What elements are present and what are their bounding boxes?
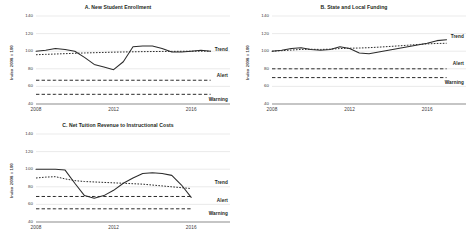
x-axis-tick-label: 2008: [267, 107, 278, 113]
y-axis-tick-label: 140: [25, 14, 33, 18]
chart-panel-a: A. New Student Enrollment 40608010012014…: [0, 4, 236, 120]
x-axis-tick-label: 2012: [108, 225, 119, 231]
y-axis-tick-label: 80: [28, 185, 33, 189]
y-axis-tick-label: 80: [28, 67, 33, 71]
panel-b-title: B. State and Local Funding: [236, 4, 472, 11]
series-annotation-trend: Trend: [215, 180, 228, 185]
series-line-trend: [36, 51, 211, 55]
series-annotation-alert: Alert: [217, 73, 228, 78]
y-axis-tick-label: 120: [261, 32, 269, 36]
y-axis-tick-label: 80: [264, 67, 269, 71]
x-axis-tick-label: 2016: [186, 107, 197, 113]
chart-panel-b: B. State and Local Funding 4060801001201…: [236, 4, 472, 120]
series-annotation-trend: Trend: [451, 34, 464, 39]
y-axis-tick-label: 60: [28, 202, 33, 206]
x-axis-tick-label: 2012: [108, 107, 119, 113]
x-axis-tick-label: 2016: [422, 107, 433, 113]
panel-b-plot-area: 406080100120140Index 2008 = 100200820122…: [236, 12, 472, 120]
y-axis-tick-label: 120: [25, 150, 33, 154]
y-axis-tick-label: 40: [264, 102, 269, 106]
panel-c-plot-area: 406080100120140Index 2008 = 100200820122…: [0, 130, 236, 238]
y-axis-tick-label: 120: [25, 32, 33, 36]
series-line-actual: [272, 40, 447, 54]
series-annotation-warning: Warning: [209, 211, 228, 216]
y-axis-tick-label: 100: [261, 49, 269, 53]
y-axis-label: Index 2008 = 100: [9, 45, 14, 80]
series-annotation-warning: Warning: [445, 80, 464, 85]
series-line-actual: [36, 46, 211, 70]
series-annotation-alert: Alert: [217, 198, 228, 203]
series-line-actual: [36, 169, 191, 198]
y-axis-tick-label: 140: [261, 14, 269, 18]
y-axis-tick-label: 100: [25, 49, 33, 53]
panel-svg-a: [0, 12, 236, 120]
x-axis-tick-label: 2012: [344, 107, 355, 113]
panel-svg-c: [0, 130, 236, 238]
panel-a-title: A. New Student Enrollment: [0, 4, 236, 11]
series-annotation-trend: Trend: [215, 47, 228, 52]
panel-svg-b: [236, 12, 472, 120]
panel-c-title: C. Net Tuition Revenue to Instructional …: [0, 122, 236, 129]
y-axis-label: Index 2008 = 100: [9, 163, 14, 198]
series-annotation-warning: Warning: [209, 97, 228, 102]
panel-a-plot-area: 406080100120140Index 2008 = 100200820122…: [0, 12, 236, 120]
y-axis-tick-label: 100: [25, 167, 33, 171]
multi-panel-chart-figure: A. New Student Enrollment 40608010012014…: [0, 0, 472, 240]
y-axis-tick-label: 60: [264, 84, 269, 88]
y-axis-tick-label: 60: [28, 84, 33, 88]
y-axis-tick-label: 40: [28, 220, 33, 224]
y-axis-label: Index 2008 = 100: [245, 45, 250, 80]
x-axis-tick-label: 2016: [186, 225, 197, 231]
y-axis-tick-label: 40: [28, 102, 33, 106]
chart-panel-c: C. Net Tuition Revenue to Instructional …: [0, 122, 236, 238]
series-annotation-alert: Alert: [453, 61, 464, 66]
y-axis-tick-label: 140: [25, 132, 33, 136]
x-axis-tick-label: 2008: [31, 225, 42, 231]
x-axis-tick-label: 2008: [31, 107, 42, 113]
